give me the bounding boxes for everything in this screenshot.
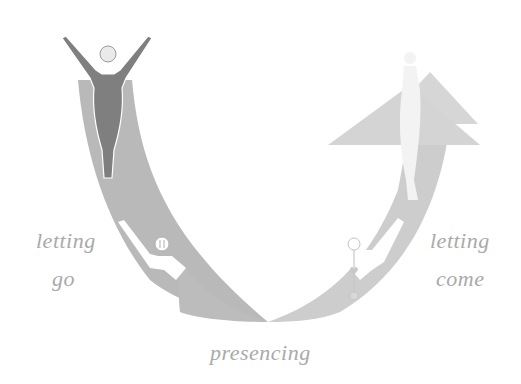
letting-come-label-line1: letting [430,230,490,252]
letting-go-label-line1: letting [36,230,96,252]
u-process-diagram: letting go letting come presencing [0,0,521,384]
right-ascending-band [268,124,450,322]
letting-come-label-line2: come [436,268,484,290]
u-shape-graphic [0,0,521,384]
letting-go-label-line2: go [52,268,75,290]
presencing-label: presencing [210,342,311,364]
